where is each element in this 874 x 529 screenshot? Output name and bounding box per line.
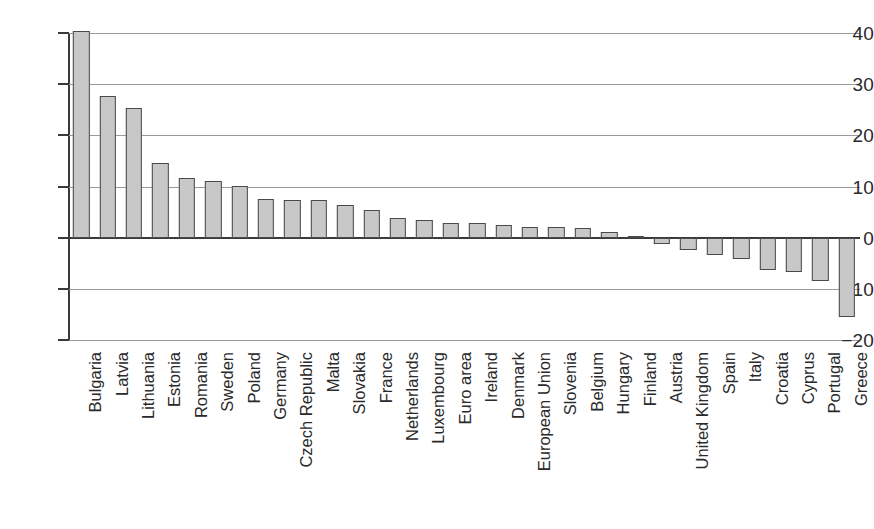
bar-slot [834, 0, 860, 360]
x-tick-label-text: Bulgaria [87, 352, 104, 413]
bar[interactable] [654, 238, 670, 244]
x-tick-label-text: France [378, 352, 395, 403]
bar[interactable] [231, 186, 247, 238]
x-tick-label: Ireland [483, 352, 500, 402]
bar[interactable] [680, 238, 696, 250]
bar[interactable] [733, 238, 749, 259]
bar-slot [306, 0, 332, 360]
x-tick-label: Belgium [589, 352, 606, 412]
bar[interactable] [73, 31, 89, 237]
x-tick-label-text: Luxembourg [430, 352, 447, 444]
bar[interactable] [575, 228, 591, 238]
bar-slot [622, 0, 648, 360]
bar[interactable] [363, 210, 379, 238]
bar[interactable] [707, 238, 723, 255]
x-tick-label-text: Slovakia [351, 352, 368, 414]
bar[interactable] [759, 238, 775, 271]
x-tick-label-text: Spain [721, 352, 738, 394]
x-tick-label: Cyprus [800, 352, 817, 404]
bar-slot [121, 0, 147, 360]
x-tick-label-text: Portugal [826, 352, 843, 413]
x-tick-label: Portugal [826, 352, 843, 413]
bar-slot [226, 0, 252, 360]
x-tick-label: Slovakia [351, 352, 368, 414]
x-tick-label: Austria [668, 352, 685, 403]
x-tick-labels: BulgariaLatviaLithuaniaEstoniaRomaniaSwe… [68, 352, 860, 502]
bar-slot [438, 0, 464, 360]
bar-slot [702, 0, 728, 360]
bar[interactable] [179, 178, 195, 238]
x-tick-label-text: Hungary [615, 352, 632, 414]
x-tick-label: Luxembourg [430, 352, 447, 444]
bar-slot [596, 0, 622, 360]
x-tick-label-text: Poland [246, 352, 263, 403]
x-tick-label-text: European Union [536, 352, 553, 471]
x-tick-label-text: Estonia [166, 352, 183, 407]
x-tick-label: Slovenia [562, 352, 579, 415]
bar[interactable] [284, 200, 300, 238]
bar-slot [94, 0, 120, 360]
x-tick-label: Croatia [774, 352, 791, 405]
x-tick-label-text: Cyprus [800, 352, 817, 404]
x-tick-label: Italy [747, 352, 764, 382]
bar-slot [174, 0, 200, 360]
x-tick-label: Hungary [615, 352, 632, 414]
x-tick-label-text: Sweden [219, 352, 236, 412]
x-tick-label: United Kingdom [694, 352, 711, 469]
x-tick-label: Bulgaria [87, 352, 104, 413]
x-tick-label-text: Italy [747, 352, 764, 382]
x-tick-label: Sweden [219, 352, 236, 412]
bar[interactable] [126, 108, 142, 238]
bar-slot [517, 0, 543, 360]
y-axis [0, 0, 62, 360]
bar-slot [200, 0, 226, 360]
x-tick-label-text: Belgium [589, 352, 606, 412]
x-tick-label: Spain [721, 352, 738, 394]
x-tick-label: Denmark [510, 352, 527, 419]
bar-slot [754, 0, 780, 360]
bar[interactable] [205, 181, 221, 238]
bar[interactable] [522, 227, 538, 238]
x-tick-label: Estonia [166, 352, 183, 407]
bar-slot [728, 0, 754, 360]
x-tick-label: Romania [193, 352, 210, 418]
bar[interactable] [627, 236, 643, 238]
bar[interactable] [601, 232, 617, 238]
x-tick-label: Czech Republic [298, 352, 315, 468]
bar-slot [68, 0, 94, 360]
bar-slot [332, 0, 358, 360]
bar[interactable] [443, 223, 459, 238]
figure-caption [8, 513, 868, 529]
bar-slot [543, 0, 569, 360]
bar[interactable] [469, 223, 485, 237]
bar[interactable] [337, 205, 353, 238]
bar[interactable] [416, 220, 432, 238]
bar-slot [411, 0, 437, 360]
x-tick-label: European Union [536, 352, 553, 471]
bar[interactable] [812, 238, 828, 281]
x-tick-label: Euro area [457, 352, 474, 424]
x-tick-label: Poland [246, 352, 263, 403]
bar-slot [385, 0, 411, 360]
x-tick-label: Greece [853, 352, 870, 406]
bar[interactable] [311, 200, 327, 237]
x-tick-label-text: Romania [193, 352, 210, 418]
x-tick-label: Germany [272, 352, 289, 420]
x-tick-label: Netherlands [404, 352, 421, 441]
bar-slot [147, 0, 173, 360]
bar-slot [781, 0, 807, 360]
bar-slot [464, 0, 490, 360]
bar[interactable] [548, 227, 564, 237]
bar[interactable] [390, 218, 406, 237]
bar[interactable] [258, 199, 274, 238]
x-tick-label-text: Czech Republic [298, 352, 315, 468]
bar[interactable] [786, 238, 802, 273]
bar[interactable] [99, 96, 115, 237]
bar[interactable] [839, 238, 855, 317]
bar[interactable] [495, 225, 511, 237]
x-tick-label-text: Austria [668, 352, 685, 403]
x-tick-label-text: Latvia [114, 352, 131, 396]
x-tick-label: Latvia [114, 352, 131, 396]
x-tick-label-text: Croatia [774, 352, 791, 405]
bar[interactable] [152, 163, 168, 237]
